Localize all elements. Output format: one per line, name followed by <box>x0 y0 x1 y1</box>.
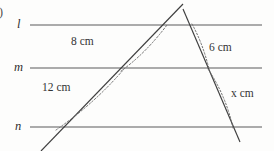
transversal-left <box>41 4 183 151</box>
label-measure-left-upper: 8 cm <box>71 36 94 48</box>
label-line-n: n <box>15 120 21 133</box>
list-item-marker: ) <box>0 6 3 18</box>
label-measure-right-upper: 6 cm <box>209 42 232 54</box>
transversal-right <box>183 9 240 142</box>
label-line-m: m <box>14 61 23 74</box>
dotted-right-lower <box>208 69 233 128</box>
label-line-l: l <box>17 18 20 31</box>
geometry-figure: ) l m n 8 cm 12 cm 6 cm x cm <box>0 0 274 151</box>
label-measure-right-lower: x cm <box>231 88 254 100</box>
dotted-right-upper <box>192 24 209 69</box>
figure-canvas <box>0 0 274 151</box>
dotted-left-upper <box>121 25 167 71</box>
label-measure-left-lower: 12 cm <box>42 82 70 94</box>
transversal-group <box>41 4 240 151</box>
